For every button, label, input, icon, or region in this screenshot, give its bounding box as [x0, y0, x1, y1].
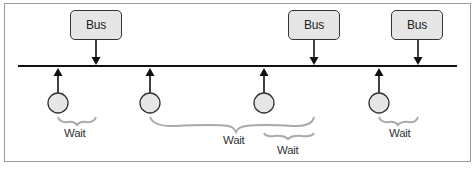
arrow-up-icon — [375, 68, 384, 93]
arrow-down-icon — [92, 40, 101, 65]
arrow-up-icon — [146, 68, 155, 93]
arrow-down-icon — [414, 40, 423, 65]
passenger-node-icon — [369, 93, 389, 113]
wait-label: Wait — [389, 127, 410, 139]
wait-brace-icon — [58, 117, 96, 125]
bus-label: Bus — [407, 18, 427, 32]
bus-box: Bus — [391, 10, 443, 40]
wait-label: Wait — [277, 144, 298, 156]
wait-label: Wait — [223, 134, 244, 146]
arrow-up-icon — [54, 68, 63, 93]
passenger-node-icon — [140, 93, 160, 113]
arrow-down-icon — [310, 40, 319, 65]
passenger-node-icon — [254, 93, 274, 113]
wait-label: Wait — [64, 127, 85, 139]
wait-brace-icon — [150, 117, 314, 132]
bus-box: Bus — [288, 10, 340, 40]
wait-brace-icon — [379, 117, 418, 125]
wait-brace-icon — [264, 133, 314, 139]
bus-label: Bus — [86, 18, 106, 32]
arrow-up-icon — [260, 68, 269, 93]
bus-box: Bus — [70, 10, 122, 40]
bus-label: Bus — [304, 18, 324, 32]
passenger-node-icon — [48, 93, 68, 113]
